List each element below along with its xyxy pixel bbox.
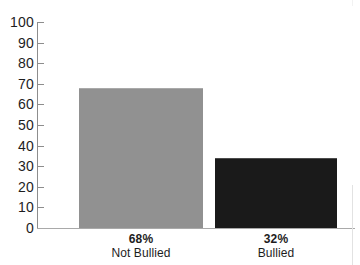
bar-bullied: [215, 158, 337, 228]
y-axis-label-50-wrap: 50: [0, 118, 34, 132]
y-axis-label-10-wrap: 10: [0, 200, 34, 214]
frame-right-edge-top: [352, 0, 353, 6]
y-axis-label-100-wrap: 100: [0, 15, 34, 29]
y-axis-tick-80: [37, 63, 44, 64]
y-axis-tick-10: [37, 207, 44, 208]
y-axis-tick-30: [37, 166, 44, 167]
y-axis-label-30: 30: [0, 159, 34, 173]
y-axis-label-100: 100: [0, 15, 34, 29]
category-label-not-bullied: 68% Not Bullied: [79, 232, 203, 260]
y-axis-label-40-wrap: 40: [0, 139, 34, 153]
y-axis-label-90: 90: [0, 36, 34, 50]
y-axis-label-0-wrap: 0: [0, 221, 34, 235]
y-axis-tick-90: [37, 43, 44, 44]
y-axis-label-90-wrap: 90: [0, 36, 34, 50]
y-axis-label-30-wrap: 30: [0, 159, 34, 173]
y-axis-label-10: 10: [0, 200, 34, 214]
y-axis-tick-70: [37, 84, 44, 85]
bar-category-label-not-bullied: Not Bullied: [79, 246, 203, 260]
bar-value-label-not-bullied: 68%: [79, 232, 203, 246]
y-axis-label-40: 40: [0, 139, 34, 153]
y-axis-label-20-wrap: 20: [0, 180, 34, 194]
y-axis-tick-50: [37, 125, 44, 126]
bar-top-highlight: [79, 88, 203, 89]
bar-not-bullied: [79, 88, 203, 228]
y-axis-tick-60: [37, 104, 44, 105]
y-axis-tick-100: [37, 22, 44, 23]
y-axis-label-80-wrap: 80: [0, 56, 34, 70]
plot-area: 100 90 80 70 60 50 40 30: [0, 0, 360, 265]
bar-category-label-bullied: Bullied: [215, 246, 337, 260]
bar-value-label-bullied: 32%: [215, 232, 337, 246]
y-axis-label-50: 50: [0, 118, 34, 132]
y-axis-label-70: 70: [0, 77, 34, 91]
y-axis-label-70-wrap: 70: [0, 77, 34, 91]
bar-chart: 100 90 80 70 60 50 40 30: [0, 0, 360, 265]
y-axis-tick-20: [37, 187, 44, 188]
y-axis-label-60: 60: [0, 97, 34, 111]
y-axis-label-80: 80: [0, 56, 34, 70]
frame-right-edge: [352, 185, 353, 265]
y-axis-tick-40: [37, 146, 44, 147]
y-axis-label-60-wrap: 60: [0, 97, 34, 111]
bar-top-highlight: [215, 158, 337, 159]
y-axis-label-0: 0: [0, 221, 34, 235]
y-axis-label-20: 20: [0, 180, 34, 194]
category-label-bullied: 32% Bullied: [215, 232, 337, 260]
x-axis-line: [37, 228, 355, 229]
